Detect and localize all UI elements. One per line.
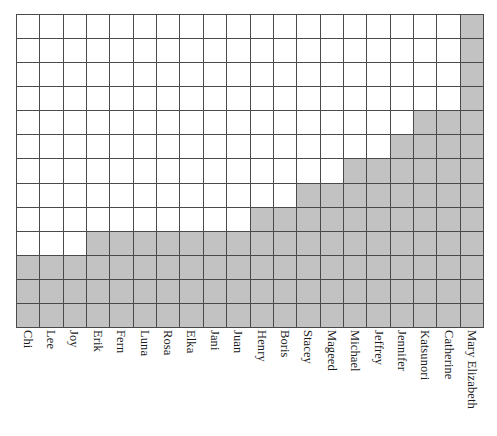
- bar-block-empty: [40, 232, 63, 256]
- category-label-slot: Boris: [273, 330, 296, 434]
- bar-block-empty: [157, 184, 180, 208]
- category-label: Michael: [349, 330, 362, 372]
- category-label-slot: Mary Elizabeth: [461, 330, 484, 434]
- bar-block-empty: [180, 15, 203, 39]
- bar-block-empty: [180, 208, 203, 232]
- bar-block-empty: [344, 87, 367, 111]
- bar-block-empty: [17, 184, 40, 208]
- bar-block-filled: [251, 304, 274, 328]
- bar-block-filled: [157, 256, 180, 280]
- bar-block-empty: [64, 135, 87, 159]
- bar-block-filled: [461, 87, 484, 111]
- bar-block-filled: [227, 280, 250, 304]
- bar-block-empty: [157, 135, 180, 159]
- bar-block-empty: [297, 39, 320, 63]
- bar-block-filled: [461, 304, 484, 328]
- bar-block-empty: [180, 184, 203, 208]
- bar-block-filled: [367, 184, 390, 208]
- bar-block-empty: [64, 63, 87, 87]
- bar-block-filled: [437, 135, 460, 159]
- category-label: Lee: [45, 330, 58, 349]
- bar-block-empty: [64, 87, 87, 111]
- category-label-slot: Michael: [344, 330, 367, 434]
- bar-block-filled: [274, 232, 297, 256]
- bar-block-filled: [437, 111, 460, 135]
- bar-block-filled: [414, 184, 437, 208]
- bar-block-filled: [321, 304, 344, 328]
- bar-block-filled: [461, 184, 484, 208]
- bar-block-empty: [367, 63, 390, 87]
- category-label-slot: Joy: [63, 330, 86, 434]
- bar-block-filled: [297, 208, 320, 232]
- bar-block-filled: [391, 256, 414, 280]
- bar-block-filled: [134, 280, 157, 304]
- bar-block-empty: [344, 135, 367, 159]
- category-label-slot: Erik: [86, 330, 109, 434]
- bar-block-empty: [437, 63, 460, 87]
- bar-block-empty: [274, 39, 297, 63]
- bar-block-empty: [134, 159, 157, 183]
- bar-block-empty: [64, 15, 87, 39]
- category-label: Rosa: [162, 330, 175, 355]
- bar-block-empty: [414, 63, 437, 87]
- bar-block-empty: [157, 39, 180, 63]
- bar-block-empty: [321, 87, 344, 111]
- bar-block-empty: [17, 15, 40, 39]
- bar-block-filled: [367, 256, 390, 280]
- bar-block-filled: [180, 256, 203, 280]
- bar-block-filled: [391, 135, 414, 159]
- bar-block-empty: [321, 63, 344, 87]
- bar-block-empty: [64, 184, 87, 208]
- bar-block-empty: [297, 15, 320, 39]
- bar-block-filled: [204, 280, 227, 304]
- bar-block-filled: [414, 159, 437, 183]
- bar-block-empty: [437, 39, 460, 63]
- bar-block-empty: [64, 208, 87, 232]
- bar-block-filled: [437, 232, 460, 256]
- bar-block-filled: [297, 232, 320, 256]
- bar-block-empty: [391, 63, 414, 87]
- block-bar-chart: ChiLeeJoyErikFernLunaRosaElkaJaniJuanHen…: [0, 0, 497, 436]
- bar-block-empty: [437, 87, 460, 111]
- bar-block-empty: [17, 208, 40, 232]
- bar-block-filled: [40, 256, 63, 280]
- bar-block-empty: [64, 159, 87, 183]
- bar-block-filled: [297, 256, 320, 280]
- bar-block-filled: [251, 232, 274, 256]
- bar-block-empty: [344, 39, 367, 63]
- category-label: Henry: [255, 330, 268, 362]
- category-label: Boris: [279, 330, 292, 358]
- bar-block-empty: [204, 135, 227, 159]
- bar-block-empty: [367, 87, 390, 111]
- bar-block-empty: [251, 15, 274, 39]
- bar-block-filled: [17, 304, 40, 328]
- bar-block-filled: [344, 280, 367, 304]
- bar-block-empty: [110, 135, 133, 159]
- bar-block-filled: [40, 304, 63, 328]
- bar-block-empty: [157, 15, 180, 39]
- bar-block-empty: [17, 87, 40, 111]
- bar-block-filled: [227, 256, 250, 280]
- bar-block-filled: [414, 135, 437, 159]
- bar-block-empty: [157, 159, 180, 183]
- bar-block-empty: [204, 159, 227, 183]
- bar-block-empty: [157, 208, 180, 232]
- bar-block-empty: [17, 39, 40, 63]
- bar-block-filled: [461, 39, 484, 63]
- bar-block-empty: [297, 135, 320, 159]
- bar-block-empty: [40, 111, 63, 135]
- bar-block-empty: [391, 15, 414, 39]
- bar-block-empty: [180, 39, 203, 63]
- category-label: Jennifer: [396, 330, 409, 371]
- bar-block-filled: [437, 256, 460, 280]
- bar-block-empty: [110, 208, 133, 232]
- bar-block-empty: [297, 159, 320, 183]
- bar-block-filled: [321, 280, 344, 304]
- bar-block-filled: [204, 232, 227, 256]
- bar-block-empty: [321, 111, 344, 135]
- bar-block-filled: [461, 63, 484, 87]
- bar-block-filled: [321, 184, 344, 208]
- bar-block-filled: [391, 159, 414, 183]
- category-label-slot: Katsunori: [414, 330, 437, 434]
- bar-block-filled: [134, 304, 157, 328]
